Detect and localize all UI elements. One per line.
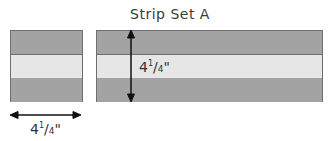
height-numerator: 1 [148,59,153,68]
height-unit: " [163,59,169,75]
width-numerator: 1 [39,121,44,130]
vertical-dimension-arrow-icon [128,30,135,102]
width-dimension-label: 41/4" [30,121,61,137]
width-whole: 4 [30,121,39,137]
height-whole: 4 [139,59,148,75]
horizontal-dimension-arrow-icon [10,112,81,119]
height-dimension-label: 41/4" [139,59,170,75]
width-unit: " [54,121,60,137]
